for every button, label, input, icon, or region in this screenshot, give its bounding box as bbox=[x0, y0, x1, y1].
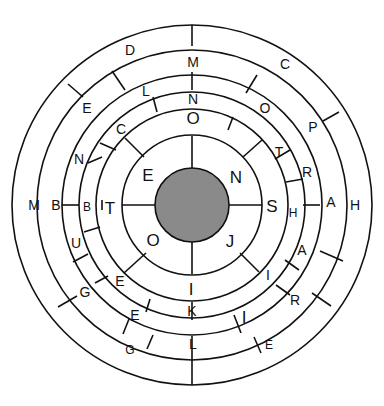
wheel-graphic bbox=[0, 0, 384, 406]
sector-divider bbox=[286, 179, 303, 182]
sector-divider bbox=[153, 97, 157, 112]
sector-divider bbox=[124, 253, 146, 273]
sector-divider bbox=[228, 117, 233, 130]
word-wheel-diagram: ENOJOCTTSEIINNBHKEILORULRMEPBAAGEGDCMH bbox=[0, 0, 384, 406]
sector-divider bbox=[234, 315, 241, 333]
sector-divider bbox=[112, 71, 125, 90]
sector-divider bbox=[73, 254, 88, 262]
center-hub bbox=[155, 168, 229, 242]
sector-divider bbox=[123, 319, 129, 334]
sector-divider bbox=[243, 140, 262, 157]
sector-divider bbox=[147, 335, 153, 349]
sector-divider bbox=[68, 84, 83, 97]
sector-divider bbox=[84, 227, 100, 232]
sector-divider bbox=[240, 253, 259, 272]
sector-divider bbox=[100, 143, 116, 150]
sector-divider bbox=[323, 112, 339, 121]
sector-divider bbox=[276, 285, 290, 295]
sector-divider bbox=[125, 138, 144, 157]
sector-divider bbox=[275, 150, 290, 159]
